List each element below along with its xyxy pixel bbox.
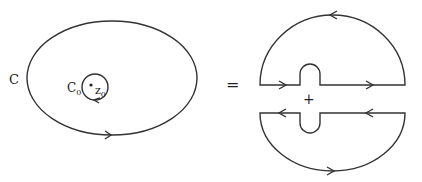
upper-half-contour (260, 15, 405, 85)
label-c0: C0 (67, 81, 81, 97)
plus-sign: + (303, 91, 315, 107)
outer-contour-c (27, 21, 197, 135)
equals-sign: = (226, 75, 239, 94)
lower-half-contour (260, 113, 405, 171)
point-z0 (89, 83, 92, 86)
label-c: C (9, 72, 19, 87)
contour-diagram: C C0 z0 = + (0, 0, 422, 182)
label-z0: z0 (95, 84, 106, 99)
